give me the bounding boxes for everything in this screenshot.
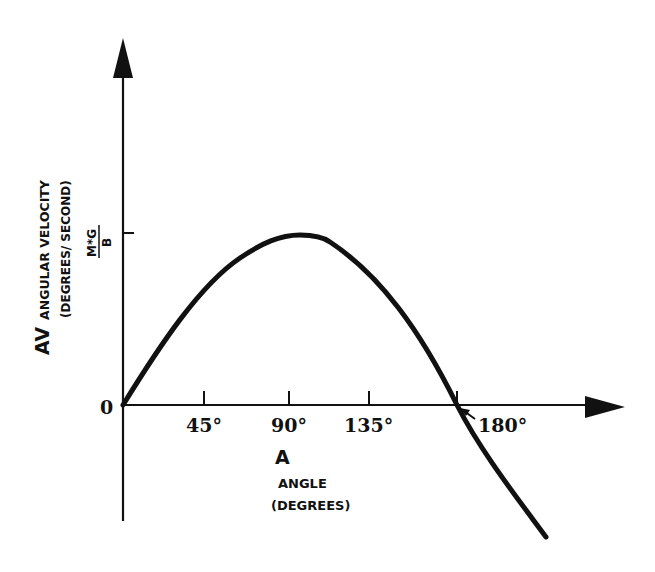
y-tick-label-denominator: B — [100, 238, 114, 247]
x-tick-label-135: 135° — [344, 414, 393, 436]
y-axis-main-label: AV — [31, 327, 53, 355]
y-axis-sub-label-2: (DEGREES/ SECOND) — [59, 180, 73, 318]
x-axis-arrow-icon — [585, 396, 625, 418]
y-axis-sub-label-1: ANGULAR VELOCITY — [37, 179, 52, 320]
x-axis-sub-label-1: ANGLE — [278, 476, 327, 491]
angular-velocity-chart: 0 45° 90° 135° 180° A ANGLE (DEGREES) AV… — [0, 0, 655, 572]
x-axis-sub-label-2: (DEGREES) — [271, 498, 350, 513]
x-tick-label-45: 45° — [186, 414, 222, 436]
x-tick-label-90: 90° — [271, 414, 307, 436]
x-tick-label-180: 180° — [478, 414, 527, 436]
y-tick-label-numerator: M*G — [85, 229, 99, 257]
y-zero-label: 0 — [100, 396, 113, 418]
y-axis-arrow-icon — [113, 38, 133, 78]
angular-velocity-curve — [123, 235, 546, 537]
x-axis-main-label: A — [275, 446, 290, 468]
